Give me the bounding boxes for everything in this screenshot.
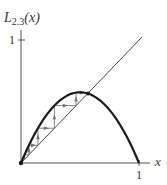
diagonal-line	[21, 37, 142, 163]
logistic-curve	[21, 92, 139, 163]
logistic-map-diagram: L2.3(x) 1 1 x	[0, 0, 167, 185]
x-axis-label: x	[154, 154, 161, 169]
y-tick-label: 1	[9, 33, 15, 47]
fixed-point-dot	[86, 92, 90, 96]
y-axis-label: L2.3(x)	[3, 10, 40, 27]
x-tick-label: 1	[136, 168, 142, 182]
origin-dot	[19, 161, 23, 165]
